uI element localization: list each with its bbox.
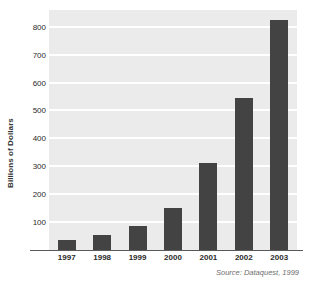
bar-slot bbox=[84, 10, 119, 250]
bar-1997 bbox=[58, 240, 76, 250]
x-axis-tick-label: 2003 bbox=[262, 253, 297, 267]
x-axis-tick-label: 1997 bbox=[49, 253, 84, 267]
bar-slot bbox=[155, 10, 190, 250]
bar-chart-figure: Billions of Dollars 10020030040050060070… bbox=[0, 0, 311, 287]
bar-2003 bbox=[270, 20, 288, 250]
bar-slot bbox=[120, 10, 155, 250]
x-axis-tick-label: 2000 bbox=[155, 253, 190, 267]
bars-group bbox=[49, 10, 297, 250]
bar-2001 bbox=[199, 163, 217, 250]
bar-1998 bbox=[93, 235, 111, 250]
y-axis-tick-label: 700 bbox=[22, 50, 46, 59]
bar-slot bbox=[226, 10, 261, 250]
bar-slot bbox=[191, 10, 226, 250]
x-axis-tick-label: 2001 bbox=[191, 253, 226, 267]
y-axis-tick-label: 200 bbox=[22, 190, 46, 199]
y-axis-tick-label: 300 bbox=[22, 162, 46, 171]
y-axis-tick-label: 500 bbox=[22, 106, 46, 115]
y-axis-tick-label: 400 bbox=[22, 134, 46, 143]
bar-slot bbox=[49, 10, 84, 250]
bar-2002 bbox=[235, 98, 253, 250]
y-axis-tick-label: 800 bbox=[22, 22, 46, 31]
x-axis-tick-label: 1999 bbox=[120, 253, 155, 267]
plot-area bbox=[49, 10, 297, 250]
x-axis-tick-label: 2002 bbox=[226, 253, 261, 267]
x-axis-tick-label: 1998 bbox=[84, 253, 119, 267]
x-axis-line bbox=[30, 250, 303, 251]
bar-1999 bbox=[129, 226, 147, 250]
x-axis-tick-labels: 1997199819992000200120022003 bbox=[49, 253, 297, 267]
bar-2000 bbox=[164, 208, 182, 250]
y-axis-tick-label: 100 bbox=[22, 218, 46, 227]
y-axis-tick-labels: 100200300400500600700800 bbox=[22, 10, 46, 250]
y-axis-title: Billions of Dollars bbox=[6, 88, 20, 188]
y-axis-tick-label: 600 bbox=[22, 78, 46, 87]
source-note: Source: Dataquest, 1999 bbox=[216, 268, 299, 277]
bar-slot bbox=[262, 10, 297, 250]
